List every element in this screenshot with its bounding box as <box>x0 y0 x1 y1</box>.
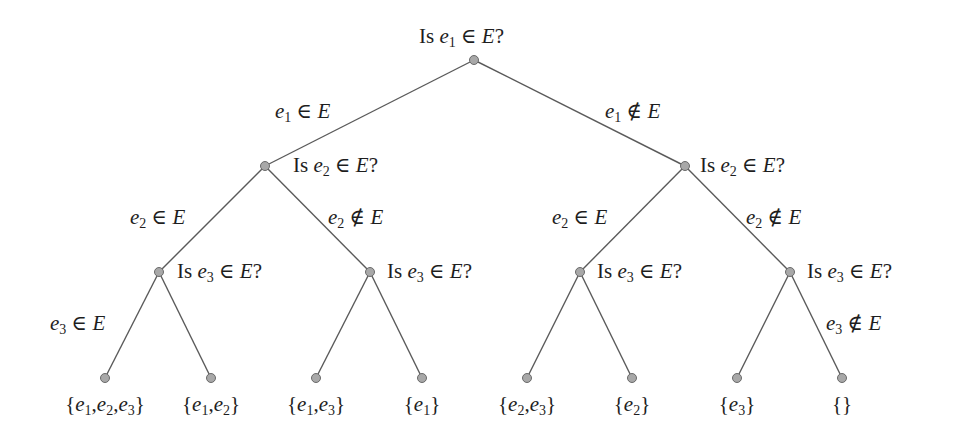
in-symbol: ∈ <box>330 153 356 177</box>
in-symbol: ∈ <box>66 311 92 335</box>
leaf-node-3 <box>418 374 427 383</box>
lbrace: { <box>498 392 508 416</box>
var-e: e <box>617 259 626 283</box>
set-e: E <box>594 205 607 229</box>
edge-label-e2-notin-e-left: e2 ∉ E <box>328 207 383 228</box>
lbrace: { <box>832 392 842 416</box>
leaf-set-4: {e2,e3} <box>498 394 556 415</box>
lbrace: { <box>614 392 624 416</box>
in-symbol: ∈ <box>146 205 172 229</box>
leaf-set-1: {e1,e2} <box>182 394 240 415</box>
sub: 3 <box>837 270 844 285</box>
sub: 3 <box>417 270 424 285</box>
leaf-node-4 <box>523 374 532 383</box>
sub: 2 <box>223 403 230 418</box>
var-e: e <box>827 259 836 283</box>
var-e: e <box>118 392 127 416</box>
rbrace: } <box>546 392 556 416</box>
set-e: E <box>763 153 776 177</box>
in-symbol: ∈ <box>424 259 450 283</box>
sub: 3 <box>207 270 214 285</box>
sub: 3 <box>128 403 135 418</box>
set-e: E <box>92 311 105 335</box>
var-e: e <box>275 99 284 123</box>
var-e: e <box>50 311 59 335</box>
set-e: E <box>172 205 185 229</box>
lbrace: { <box>65 392 75 416</box>
question-mark: ? <box>673 259 682 283</box>
in-symbol: ∈ <box>456 24 482 48</box>
edge-lr-leaf3 <box>370 272 422 378</box>
edge-label-e3-notin-e: e3 ∉ E <box>826 313 881 334</box>
var-e: e <box>97 392 106 416</box>
node-ll <box>155 268 164 277</box>
edge-label-e2-in-e-right: e2 ∈ E <box>552 207 607 228</box>
edge-label-e2-notin-e-right: e2 ∉ E <box>746 207 801 228</box>
edge-rl-leaf4 <box>527 272 580 378</box>
edge-rl-leaf5 <box>580 272 632 378</box>
set-e: E <box>450 259 463 283</box>
set-e: E <box>240 259 253 283</box>
var-e: e <box>197 259 206 283</box>
is-text: Is <box>293 153 313 177</box>
leaf-set-3: {e1} <box>404 394 441 415</box>
lbrace: { <box>182 392 192 416</box>
set-e: E <box>788 205 801 229</box>
edge-label-e1-notin-e: e1 ∉ E <box>605 101 660 122</box>
node-rl <box>576 268 585 277</box>
var-e: e <box>552 205 561 229</box>
node-r <box>681 162 690 171</box>
var-e: e <box>605 99 614 123</box>
question-rl: Is e3 ∈ E? <box>597 261 682 282</box>
rbrace: } <box>640 392 650 416</box>
set-e: E <box>370 205 383 229</box>
question-mark: ? <box>495 24 504 48</box>
question-root: Is e1 ∈ E? <box>419 26 504 47</box>
sub: 1 <box>449 35 456 50</box>
edge-lr-leaf2 <box>316 272 370 378</box>
edge-ll-leaf1 <box>159 272 211 378</box>
question-r: Is e2 ∈ E? <box>700 155 785 176</box>
in-symbol: ∈ <box>634 259 660 283</box>
notin-symbol: ∉ <box>842 311 868 335</box>
var-e: e <box>720 153 729 177</box>
question-rr: Is e3 ∈ E? <box>807 261 892 282</box>
node-root <box>470 56 479 65</box>
var-e: e <box>407 259 416 283</box>
in-symbol: ∈ <box>291 99 317 123</box>
var-e: e <box>826 311 835 335</box>
rbrace: } <box>842 392 852 416</box>
set-e: E <box>660 259 673 283</box>
lbrace: { <box>719 392 729 416</box>
leaf-set-6: {e3} <box>719 394 756 415</box>
rbrace: } <box>745 392 755 416</box>
set-e: E <box>482 24 495 48</box>
leaf-node-6 <box>733 374 742 383</box>
var-e: e <box>319 392 328 416</box>
node-l <box>261 162 270 171</box>
leaf-node-0 <box>101 374 110 383</box>
lbrace: { <box>287 392 297 416</box>
edge-label-e2-in-e-left: e2 ∈ E <box>130 207 185 228</box>
in-symbol: ∈ <box>568 205 594 229</box>
sub: 3 <box>539 403 546 418</box>
lbrace: { <box>404 392 414 416</box>
var-e: e <box>530 392 539 416</box>
sub: 3 <box>627 270 634 285</box>
question-lr: Is e3 ∈ E? <box>387 261 472 282</box>
leaf-set-0: {e1,e2,e3} <box>65 394 145 415</box>
leaf-set-2: {e1,e3} <box>287 394 345 415</box>
leaf-node-5 <box>628 374 637 383</box>
edge-rr-leaf6 <box>737 272 790 378</box>
leaf-node-2 <box>312 374 321 383</box>
var-e: e <box>214 392 223 416</box>
set-e: E <box>317 99 330 123</box>
leaf-set-5: {e2} <box>614 394 651 415</box>
in-symbol: ∈ <box>214 259 240 283</box>
is-text: Is <box>597 259 617 283</box>
is-text: Is <box>700 153 720 177</box>
question-mark: ? <box>253 259 262 283</box>
question-mark: ? <box>369 153 378 177</box>
question-mark: ? <box>776 153 785 177</box>
rbrace: } <box>230 392 240 416</box>
